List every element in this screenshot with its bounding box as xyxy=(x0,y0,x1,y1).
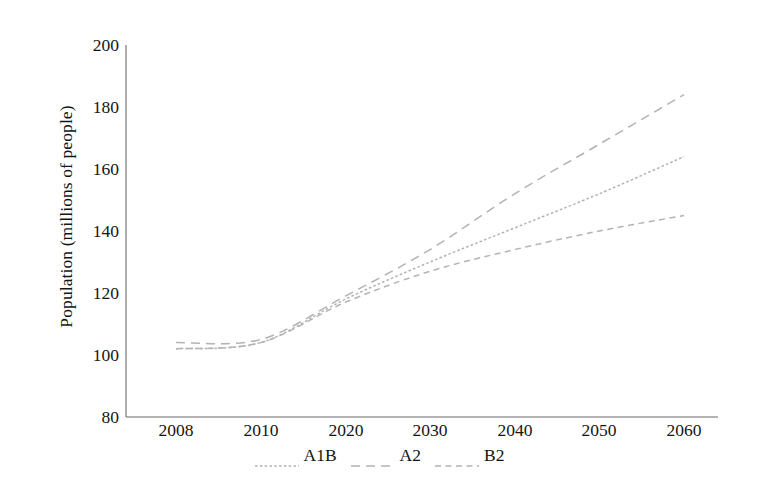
legend-label-b2: B2 xyxy=(484,447,504,465)
legend-label-a1b: A1B xyxy=(304,447,337,465)
legend-swatch-b2-icon xyxy=(435,455,479,457)
legend-swatch-a2-icon xyxy=(351,455,395,457)
legend-item-b2[interactable]: B2 xyxy=(435,447,504,465)
legend-swatch-a1b-icon xyxy=(255,455,299,457)
plot-area xyxy=(0,0,759,488)
chart-figure: Population (millions of people) 80 100 1… xyxy=(0,0,759,488)
legend-label-a2: A2 xyxy=(400,447,421,465)
series-line-b2 xyxy=(176,216,684,349)
legend-item-a1b[interactable]: A1B xyxy=(255,447,337,465)
chart-legend: A1B A2 B2 xyxy=(0,447,759,465)
series-line-a2 xyxy=(176,95,684,344)
data-series-group xyxy=(176,95,684,349)
axis-lines xyxy=(126,45,718,417)
series-line-a1b xyxy=(176,157,684,349)
legend-item-a2[interactable]: A2 xyxy=(351,447,421,465)
